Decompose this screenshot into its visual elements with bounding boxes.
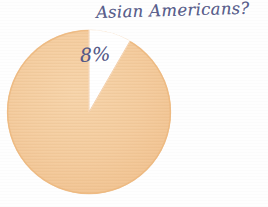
pie-chart bbox=[0, 0, 268, 207]
chart-canvas: 8% Asian Americans? bbox=[0, 0, 268, 207]
slice-percentage-label: 8% bbox=[79, 42, 110, 66]
pie-chart-svg bbox=[0, 0, 268, 207]
